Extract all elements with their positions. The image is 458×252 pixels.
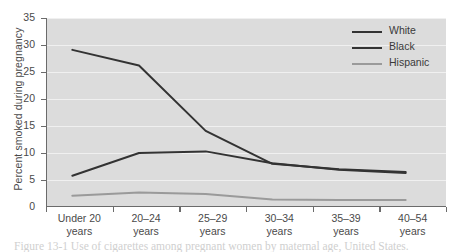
y-axis-tick-label: 5 (29, 173, 35, 185)
x-axis-label-line1: Under 20 (58, 212, 101, 224)
y-axis-tick-mark (41, 99, 46, 100)
y-axis-tick-mark (41, 18, 46, 19)
x-axis-label-line1: 35–39 (331, 212, 360, 224)
x-axis-label-line1: 25–29 (198, 212, 227, 224)
y-axis-tick-label: 10 (23, 146, 35, 158)
x-axis-label-line1: 30–34 (265, 212, 294, 224)
y-axis-tick-label: 35 (23, 11, 35, 23)
x-axis-label-line2: years (371, 225, 455, 238)
series-line-white (72, 50, 405, 172)
x-axis-label-line1: 40–54 (398, 212, 427, 224)
legend-swatch-white (352, 31, 382, 33)
legend-label-white: White (389, 24, 416, 36)
figure-caption: Figure 13-1 Use of cigarettes among preg… (14, 240, 454, 252)
plot-area: White Black Hispanic (46, 18, 446, 207)
y-axis-tick-mark (41, 153, 46, 154)
legend-swatch-black (352, 47, 382, 49)
x-axis-label-line1: 20–24 (131, 212, 160, 224)
x-axis-tick-label: 40–54years (371, 212, 455, 237)
plot-inner (47, 18, 446, 206)
y-axis-tick-mark (41, 126, 46, 127)
y-axis-tick-mark (41, 72, 46, 73)
series-line-black (72, 151, 405, 175)
y-axis-tick-label: 0 (29, 200, 35, 212)
legend-swatch-hispanic (352, 63, 382, 65)
series-line-hispanic (72, 192, 405, 200)
y-axis-tick-mark (41, 180, 46, 181)
y-axis-tick-label: 15 (23, 119, 35, 131)
legend-label-hispanic: Hispanic (389, 56, 429, 68)
y-axis-title: Percent smoked during pregnancy (12, 19, 24, 199)
y-axis-tick-label: 30 (23, 38, 35, 50)
series-lines-group (47, 18, 446, 206)
y-axis-tick-mark (41, 45, 46, 46)
legend-label-black: Black (389, 40, 415, 52)
y-axis-tick-label: 20 (23, 92, 35, 104)
y-axis-tick-label: 25 (23, 65, 35, 77)
